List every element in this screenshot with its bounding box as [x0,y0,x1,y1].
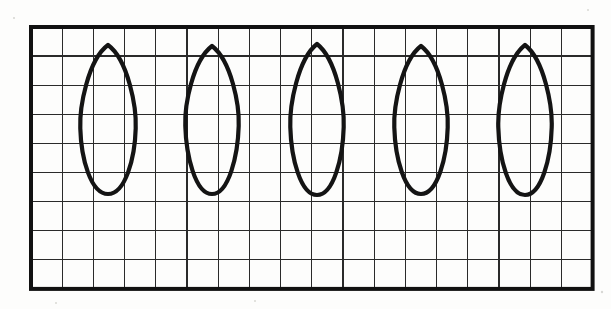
grid-petal-diagram [0,0,611,309]
page-background [0,0,611,309]
figure-canvas [0,0,611,309]
